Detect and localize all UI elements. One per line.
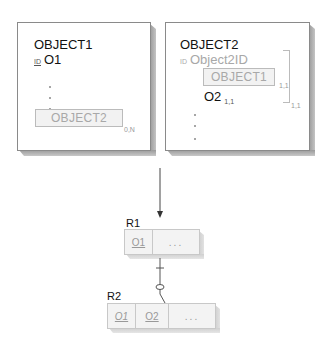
nested-object2-box: OBJECT2: [35, 109, 123, 127]
o2-attr-row: O2 1,1: [204, 89, 234, 104]
r1-col-more: ...: [153, 230, 199, 254]
r2-col-o2: O2: [136, 304, 169, 328]
o2-attr: O2: [204, 89, 221, 104]
nested-object1-box: OBJECT1: [203, 68, 275, 86]
identifier-bracket: [283, 50, 290, 103]
r2-col-o1: O1: [108, 304, 136, 328]
r2-label: R2: [107, 290, 121, 302]
zero-circle-icon: [156, 285, 164, 290]
object1-id-row: ID O1: [34, 52, 61, 67]
transform-arrow-icon: [150, 168, 170, 220]
ellipsis-dot: [194, 114, 196, 116]
object2-id-attr: Object2ID: [190, 52, 248, 67]
ellipsis-dot: [49, 97, 51, 99]
object1-id-attr: O1: [44, 52, 61, 67]
r1-col-o1: O1: [125, 230, 153, 254]
o2-cardinality: 1,1: [224, 98, 234, 105]
nested-object2-cardinality: 0,N: [124, 126, 135, 133]
id-marker: ID: [180, 58, 187, 65]
r2-col-more: ...: [169, 304, 215, 328]
r2-row: O1 O2 ...: [107, 303, 216, 329]
r1-r2-link: [150, 258, 180, 304]
object2-title: OBJECT2: [180, 37, 239, 52]
object2-id-row: ID Object2ID: [180, 52, 248, 67]
ellipsis-dot: [194, 125, 196, 127]
bracket-cardinality: 1,1: [291, 102, 301, 109]
ellipsis-dot: [49, 86, 51, 88]
id-marker: ID: [34, 58, 41, 65]
ellipsis-dot: [194, 138, 196, 140]
r1-row: O1 ...: [124, 229, 200, 255]
object1-title: OBJECT1: [34, 37, 93, 52]
r1-label: R1: [126, 217, 140, 229]
